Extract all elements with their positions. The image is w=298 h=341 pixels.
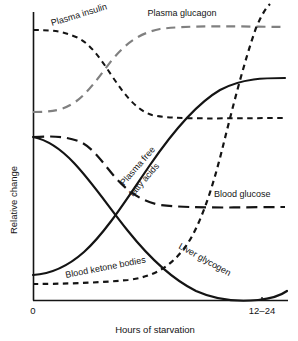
- series-plasma-free-fatty-acids: [33, 78, 285, 275]
- chart-figure: Plasma insulin Plasma glucagon Blood glu…: [0, 0, 298, 341]
- label-liver-glycogen: Liver glycogen: [177, 241, 233, 278]
- series-group: [33, 4, 287, 301]
- series-labels: Plasma insulin Plasma glucagon Blood glu…: [50, 1, 271, 280]
- label-plasma-insulin: Plasma insulin: [50, 1, 108, 28]
- y-axis-title: Relative change: [8, 166, 19, 234]
- label-blood-glucose: Blood glucose: [214, 189, 271, 199]
- series-blood-ketone-bodies: [33, 4, 270, 284]
- starvation-relative-change-chart: Plasma insulin Plasma glucagon Blood glu…: [0, 0, 298, 341]
- label-plasma-glucagon: Plasma glucagon: [147, 8, 216, 18]
- axis-lines: [33, 12, 288, 301]
- series-plasma-glucagon: [33, 26, 285, 112]
- x-tick-label-start: 0: [30, 305, 35, 316]
- x-axis-title: Hours of starvation: [115, 324, 195, 335]
- x-tick-label-end: 12–24: [249, 305, 275, 316]
